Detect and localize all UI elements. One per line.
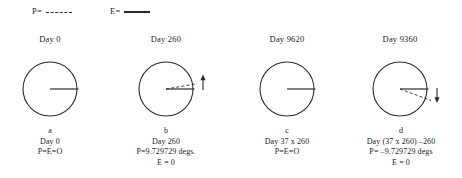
day-heading-a: Day 0 [10, 34, 90, 44]
precession-figure: P= E= Day 0 Day 260 Day 9620 Day 9360 [0, 0, 462, 178]
legend-swatch-dashed [46, 12, 72, 13]
caption-d-line-2: P= –9.729729 degs [340, 147, 462, 158]
arrow-down-icon-d [434, 88, 439, 103]
caption-a: a Day 0 P=E=O [10, 126, 90, 158]
caption-b-line-3: E = 0 [116, 158, 216, 169]
diagram-a [23, 62, 79, 116]
day-heading-b: Day 260 [126, 34, 206, 44]
panel-letter-d: d [340, 126, 462, 137]
legend-item-e: E= [110, 6, 150, 16]
caption-b-line-2: P=9.729729 degs. [116, 147, 216, 158]
caption-c-line-1: Day 37 x 260 [237, 137, 337, 148]
day-heading-d: Day 9360 [360, 34, 440, 44]
legend-item-p: P= [32, 6, 72, 16]
caption-c: c Day 37 x 260 P=E=O [237, 126, 337, 158]
caption-c-line-2: P=E=O [237, 147, 337, 158]
legend-label-p: P= [32, 6, 42, 16]
day-heading-c: Day 9620 [247, 34, 327, 44]
circle-d [373, 62, 427, 116]
diagram-c [260, 62, 316, 116]
legend: P= E= [0, 6, 462, 22]
panel-letter-b: b [116, 126, 216, 137]
panel-letter-c: c [237, 126, 337, 137]
circle-c [260, 62, 314, 116]
caption-d-line-3: E = 0 [340, 158, 462, 169]
panel-letter-a: a [10, 126, 90, 137]
legend-label-e: E= [110, 6, 120, 16]
circle-b [139, 62, 193, 116]
diagram-d [373, 62, 440, 116]
radius-dashed-d [400, 89, 431, 101]
diagram-b [139, 62, 206, 116]
caption-d: d Day (37 x 260) –260 P= –9.729729 degs … [340, 126, 462, 168]
legend-swatch-solid [124, 11, 150, 12]
radius-dashed-b [166, 84, 197, 89]
caption-a-line-1: Day 0 [10, 137, 90, 148]
caption-a-line-2: P=E=O [10, 147, 90, 158]
arrow-up-icon-b [200, 75, 205, 91]
circle-a [23, 62, 77, 116]
caption-d-line-1: Day (37 x 260) –260 [340, 137, 462, 148]
caption-b-line-1: Day 260 [116, 137, 216, 148]
caption-b: b Day 260 P=9.729729 degs. E = 0 [116, 126, 216, 168]
